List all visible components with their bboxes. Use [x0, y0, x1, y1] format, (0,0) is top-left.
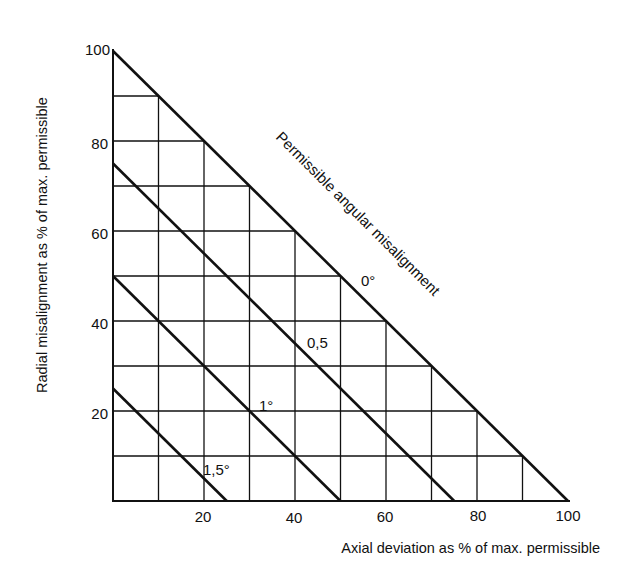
y-axis-title: Radial misalignment as % of max. permiss… [34, 97, 50, 393]
x-tick-100: 100 [555, 507, 580, 524]
y-tick-labels: 20 40 60 80 100 [85, 41, 110, 422]
line-label-1-5deg: 1,5° [203, 461, 230, 478]
line-label-1deg: 1° [259, 397, 273, 414]
x-tick-20: 20 [195, 508, 212, 525]
x-tick-60: 60 [377, 508, 394, 525]
series-line [113, 389, 227, 502]
line-label-0deg: 0° [361, 272, 375, 289]
x-axis-title: Axial deviation as % of max. permissible [341, 540, 600, 556]
grid [113, 96, 523, 501]
y-tick-20: 20 [91, 405, 108, 422]
y-tick-100: 100 [85, 41, 110, 58]
x-tick-40: 40 [286, 509, 303, 526]
series-line [113, 164, 454, 502]
line-label-0-5deg: 0,5 [307, 334, 328, 351]
y-tick-60: 60 [91, 225, 108, 242]
x-tick-80: 80 [470, 507, 487, 524]
y-tick-40: 40 [91, 315, 108, 332]
cropped-header-text [0, 0, 628, 6]
series-title-angular-misalignment: Permissible angular misalignment [273, 128, 444, 299]
y-tick-80: 80 [91, 135, 108, 152]
x-tick-labels: 20 40 60 80 100 [195, 507, 581, 526]
misalignment-chart: 20 40 60 80 100 20 40 60 80 100 Axial de… [0, 0, 628, 576]
